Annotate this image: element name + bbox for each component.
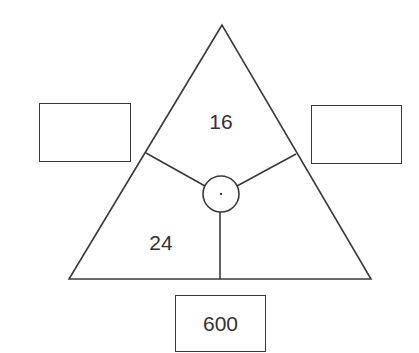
right-answer-box: [311, 105, 402, 164]
section-top-value: 16: [209, 110, 232, 134]
bottom-box-value: 600: [203, 312, 238, 336]
spoke-right: [237, 154, 296, 186]
spoke-left: [146, 153, 205, 186]
section-bottom-left-value: 24: [149, 231, 172, 255]
left-answer-box: [39, 103, 131, 162]
bottom-answer-box: 600: [175, 295, 266, 352]
center-dot: [220, 193, 222, 195]
